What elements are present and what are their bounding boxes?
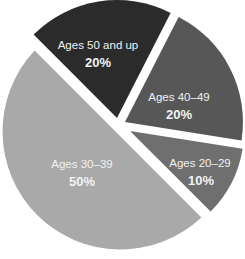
slice-label-50-up: Ages 50 and up <box>58 39 139 51</box>
slice-value-20-29: 10% <box>188 173 214 188</box>
slice-value-40-49: 20% <box>166 107 192 122</box>
slice-value-30-39: 50% <box>69 174 95 189</box>
slice-label-30-39: Ages 30–39 <box>51 158 112 170</box>
pie-slices <box>3 0 243 249</box>
pie-chart: Ages 50 and up 20% Ages 40–49 20% Ages 2… <box>0 0 245 259</box>
slice-label-20-29: Ages 20–29 <box>169 157 230 169</box>
slice-label-40-49: Ages 40–49 <box>148 91 209 103</box>
slice-value-50-up: 20% <box>85 55 111 70</box>
